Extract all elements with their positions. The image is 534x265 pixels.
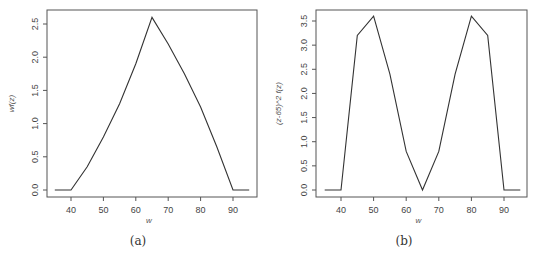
y-tick-label: 2.5 bbox=[30, 18, 40, 31]
x-tick-label: 70 bbox=[163, 205, 173, 215]
y-tick-label: 0.5 bbox=[299, 160, 309, 173]
x-tick-label: 60 bbox=[401, 205, 411, 215]
x-tick-label: 80 bbox=[466, 205, 476, 215]
y-axis-title: (z-65)^2 f(z) bbox=[274, 82, 283, 125]
y-tick-label: 0.0 bbox=[30, 184, 40, 197]
y-tick-label: 1.5 bbox=[299, 111, 309, 124]
x-tick-label: 90 bbox=[228, 205, 238, 215]
x-tick-label: 70 bbox=[434, 205, 444, 215]
caption-b: (b) bbox=[384, 234, 424, 248]
line-chart-a: 4050607080900.00.51.01.52.02.5wwf(z) bbox=[0, 0, 267, 265]
y-tick-label: 1.5 bbox=[30, 84, 40, 97]
x-tick-label: 60 bbox=[131, 205, 141, 215]
x-tick-label: 80 bbox=[196, 205, 206, 215]
y-tick-label: 2.0 bbox=[30, 51, 40, 64]
x-tick-label: 50 bbox=[369, 205, 379, 215]
y-tick-label: 2.5 bbox=[299, 63, 309, 76]
x-tick-label: 50 bbox=[98, 205, 108, 215]
y-tick-label: 3.0 bbox=[299, 39, 309, 52]
y-tick-label: 1.0 bbox=[30, 117, 40, 130]
y-tick-label: 2.0 bbox=[299, 87, 309, 100]
x-tick-label: 40 bbox=[66, 205, 76, 215]
y-tick-label: 0.0 bbox=[299, 184, 309, 197]
data-line bbox=[325, 16, 521, 190]
chart-panel-a: 4050607080900.00.51.01.52.02.5wwf(z) (a) bbox=[0, 0, 267, 265]
data-line bbox=[55, 17, 249, 190]
caption-a: (a) bbox=[118, 234, 158, 248]
chart-panel-b: 4050607080900.00.51.01.52.02.53.03.5w(z-… bbox=[267, 0, 534, 265]
y-axis-title: wf(z) bbox=[7, 95, 16, 113]
y-tick-label: 1.0 bbox=[299, 135, 309, 148]
y-tick-label: 0.5 bbox=[30, 151, 40, 164]
y-tick-label: 3.5 bbox=[299, 15, 309, 28]
x-axis-title: w bbox=[146, 216, 153, 225]
line-chart-b: 4050607080900.00.51.01.52.02.53.03.5w(z-… bbox=[267, 0, 534, 265]
x-axis-title: w bbox=[416, 216, 423, 225]
x-tick-label: 40 bbox=[336, 205, 346, 215]
x-tick-label: 90 bbox=[499, 205, 509, 215]
